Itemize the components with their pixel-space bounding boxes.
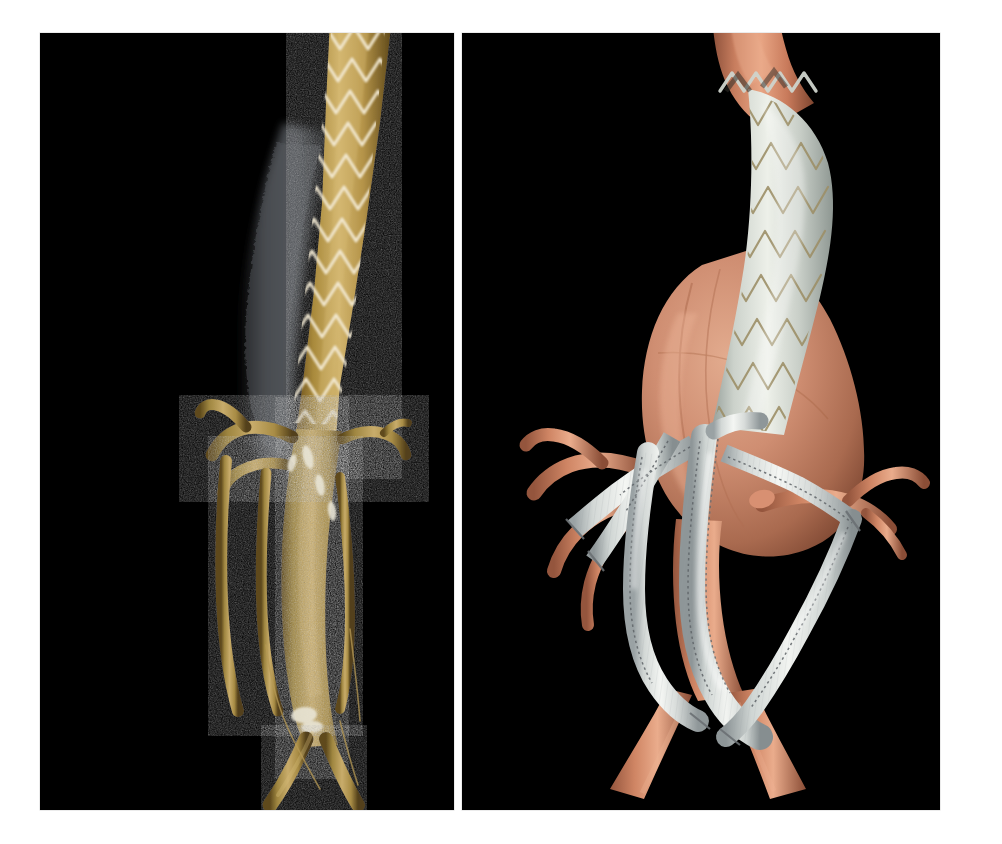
panel-medical-illustration <box>462 33 940 810</box>
figure-page: Figure 8 <box>0 0 1002 844</box>
visceral-debranching-illustration-graphic <box>462 33 940 810</box>
panel-ct-angiography <box>40 33 454 810</box>
illustration-stage <box>462 33 940 810</box>
ct-render-stage <box>40 33 454 810</box>
ct-volume-rendering-graphic <box>40 33 454 810</box>
figure-panel-row <box>40 33 940 810</box>
